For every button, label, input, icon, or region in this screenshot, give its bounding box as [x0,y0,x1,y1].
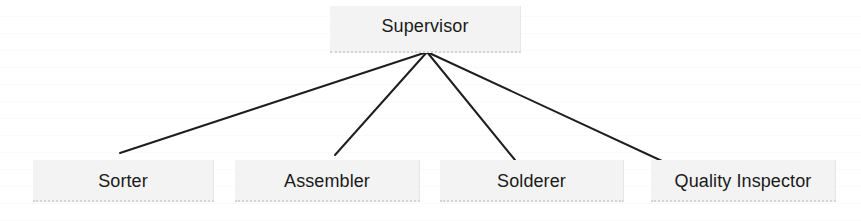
node-supervisor: Supervisor [330,6,521,53]
node-solderer: Solderer [440,160,624,202]
edge-supervisor-sorter [120,52,427,153]
node-label: Quality Inspector [675,171,812,192]
node-label: Assembler [284,171,370,192]
node-quality-inspector: Quality Inspector [651,160,836,202]
node-label: Supervisor [381,16,468,37]
node-sorter: Sorter [33,160,214,202]
edge-supervisor-quality-inspector [427,52,662,161]
node-label: Solderer [497,171,566,192]
edge-supervisor-assembler [335,52,427,155]
node-label: Sorter [98,171,148,192]
edge-supervisor-solderer [427,52,515,160]
node-assembler: Assembler [235,160,420,202]
org-chart-canvas: Supervisor Sorter Assembler Solderer Qua… [0,0,861,221]
